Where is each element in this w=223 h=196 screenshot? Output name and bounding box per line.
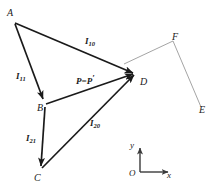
axis-label-y: y bbox=[130, 141, 134, 150]
vector-label-I11: I11 bbox=[16, 72, 26, 81]
vector-label-P-prime: ′ bbox=[92, 73, 95, 83]
diagram-canvas bbox=[0, 0, 223, 196]
vector-label-I20-sub: 20 bbox=[94, 122, 101, 129]
vector-I11-line bbox=[15, 24, 43, 99]
guide-line-fe bbox=[173, 41, 201, 107]
point-label-C: C bbox=[34, 173, 41, 183]
point-label-D: D bbox=[140, 77, 147, 87]
axis-label-origin: O bbox=[129, 169, 136, 178]
vector-I10-line bbox=[15, 23, 133, 73]
vector-I21-line bbox=[41, 107, 45, 166]
vector-label-I11-base: I bbox=[16, 71, 20, 81]
vector-label-P: P=P′ bbox=[76, 77, 95, 86]
vector-label-I20: I20 bbox=[90, 119, 100, 128]
point-label-E: E bbox=[199, 105, 205, 115]
vector-label-I10: I10 bbox=[85, 37, 95, 46]
vector-label-I20-base: I bbox=[90, 118, 94, 128]
vector-label-I10-sub: 10 bbox=[89, 40, 96, 47]
point-label-B: B bbox=[37, 103, 43, 113]
vector-label-I21: I21 bbox=[26, 134, 36, 143]
vector-label-I10-base: I bbox=[85, 36, 89, 46]
vector-label-P-base: P=P bbox=[76, 76, 92, 86]
axis-label-x: x bbox=[167, 171, 171, 180]
point-label-F: F bbox=[172, 32, 178, 42]
guide-line-fe-upper bbox=[124, 41, 173, 64]
point-label-A: A bbox=[7, 8, 13, 18]
vector-diagram-figure: A B C D E F I10 I11 I21 I20 P=P′ y x O bbox=[0, 0, 223, 196]
vector-label-I21-sub: 21 bbox=[30, 137, 37, 144]
vector-label-I21-base: I bbox=[26, 133, 30, 143]
vector-label-I11-sub: 11 bbox=[20, 75, 26, 82]
